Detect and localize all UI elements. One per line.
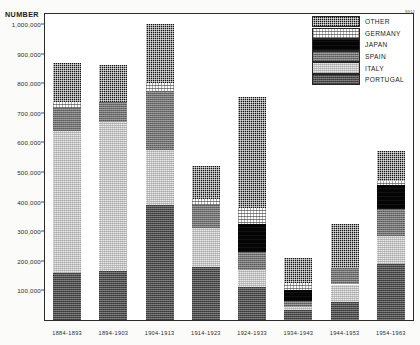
- bar-segment-germany: [146, 83, 174, 90]
- bar-segment-other: [99, 65, 127, 102]
- bar-segment-japan: [238, 224, 266, 252]
- bar-segment-portugal: [146, 205, 174, 320]
- bar-segment-portugal: [377, 264, 405, 320]
- legend-swatch-japan: [312, 39, 360, 50]
- bar-segment-italy: [146, 150, 174, 205]
- y-axis-tick-label: 1,000,000: [12, 21, 41, 28]
- legend-swatch-italy: [312, 62, 360, 73]
- bar-segment-spain: [284, 301, 312, 307]
- bar-1944-1953[interactable]: [331, 224, 359, 320]
- bar-1924-1933[interactable]: [238, 97, 266, 320]
- x-axis-tick-label: 1924-1933: [237, 330, 267, 336]
- bar-segment-italy: [284, 307, 312, 310]
- bar-1894-1903[interactable]: [99, 65, 127, 320]
- bar-segment-italy: [331, 285, 359, 303]
- legend-label-spain: SPAIN: [365, 53, 386, 60]
- bar-segment-italy: [238, 270, 266, 288]
- x-axis-tick-label: 1954-1963: [376, 330, 406, 336]
- bar-segment-other: [192, 166, 220, 199]
- bar-segment-germany: [377, 181, 405, 185]
- x-axis: 1884-18931894-19031904-19131914-19231924…: [44, 322, 414, 345]
- bar-segment-other: [238, 97, 266, 208]
- bar-segment-spain: [99, 102, 127, 121]
- legend-item-spain[interactable]: SPAIN: [312, 51, 408, 63]
- bar-segment-spain: [53, 108, 81, 130]
- bar-segment-other: [331, 224, 359, 268]
- y-axis-tick-label: 600,000: [17, 139, 41, 146]
- bar-segment-other: [377, 151, 405, 181]
- x-axis-tick-label: 1914-1923: [191, 330, 221, 336]
- legend-swatch-spain: [312, 51, 360, 62]
- legend-item-japan[interactable]: JAPAN: [312, 39, 408, 51]
- bar-segment-portugal: [284, 310, 312, 320]
- legend-item-other[interactable]: OTHER: [312, 16, 408, 28]
- bar-segment-portugal: [331, 302, 359, 320]
- legend-item-italy[interactable]: ITALY: [312, 62, 408, 74]
- y-axis-tick-label: 800,000: [17, 80, 41, 87]
- y-axis-tick-label: 900,000: [17, 50, 41, 57]
- legend-swatch-germany: [312, 28, 360, 39]
- legend-label-germany: GERMANY: [365, 30, 401, 37]
- bar-1904-1913[interactable]: [146, 24, 174, 320]
- x-axis-tick-label: 1904-1913: [145, 330, 175, 336]
- bar-segment-spain: [238, 252, 266, 270]
- legend-swatch-other: [312, 16, 360, 27]
- x-axis-tick-label: 1884-1893: [52, 330, 82, 336]
- bar-segment-germany: [53, 102, 81, 108]
- bar-segment-spain: [192, 205, 220, 229]
- x-axis-tick-label: 1894-1903: [98, 330, 128, 336]
- legend-swatch-portugal: [312, 74, 360, 85]
- bar-segment-italy: [192, 228, 220, 266]
- bar-segment-italy: [53, 131, 81, 273]
- y-axis-tick-label: 700,000: [17, 109, 41, 116]
- y-axis-tick-label: 400,000: [17, 198, 41, 205]
- y-axis-tick-label: 200,000: [17, 257, 41, 264]
- bar-1884-1893[interactable]: [53, 62, 81, 320]
- bar-segment-other: [53, 63, 81, 103]
- bar-segment-germany: [192, 199, 220, 205]
- legend-item-germany[interactable]: GERMANY: [312, 28, 408, 40]
- bar-segment-spain: [377, 209, 405, 236]
- legend-label-italy: ITALY: [365, 65, 384, 72]
- bar-segment-spain: [331, 268, 359, 284]
- legend: OTHERGERMANYJAPANSPAINITALYPORTUGAL: [312, 16, 408, 86]
- bar-segment-germany: [284, 283, 312, 290]
- bar-segment-portugal: [238, 287, 266, 320]
- bar-1914-1923[interactable]: [192, 166, 220, 320]
- y-axis-tick-label: 500,000: [17, 169, 41, 176]
- bar-segment-portugal: [192, 267, 220, 320]
- bar-segment-japan: [377, 185, 405, 209]
- bar-1934-1943[interactable]: [284, 258, 312, 320]
- y-axis-tick-label: 300,000: [17, 228, 41, 235]
- bar-segment-italy: [377, 236, 405, 264]
- x-axis-tick-label: 1944-1953: [330, 330, 360, 336]
- legend-label-other: OTHER: [365, 18, 390, 25]
- x-axis-tick-label: 1934-1943: [283, 330, 313, 336]
- legend-label-portugal: PORTUGAL: [365, 76, 404, 83]
- bar-1954-1963[interactable]: [377, 151, 405, 320]
- legend-label-japan: JAPAN: [365, 41, 388, 48]
- bar-segment-spain: [146, 91, 174, 150]
- bar-segment-other: [284, 258, 312, 283]
- legend-item-portugal[interactable]: PORTUGAL: [312, 74, 408, 86]
- y-axis: 1,000,000900,000800,000700,000600,000500…: [0, 0, 44, 345]
- stacked-bar-chart: NUMBER 8912 1,000,000900,000800,000700,0…: [0, 0, 420, 345]
- bar-segment-other: [146, 24, 174, 83]
- bar-segment-italy: [99, 122, 127, 271]
- bar-segment-japan: [284, 290, 312, 300]
- bar-segment-portugal: [99, 271, 127, 320]
- bar-segment-germany: [238, 208, 266, 224]
- bar-segment-portugal: [53, 273, 81, 320]
- y-axis-tick-label: 100,000: [17, 287, 41, 294]
